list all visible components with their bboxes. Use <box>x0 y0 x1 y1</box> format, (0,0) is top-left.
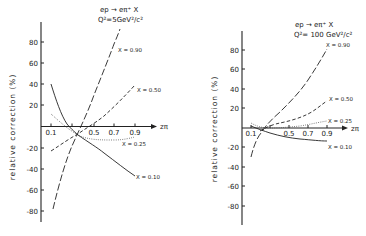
left-y-label: relative correction (%) <box>8 74 17 181</box>
right-x-label: zπ <box>351 125 360 133</box>
left-title-q2: Q²=5GeV²/c² <box>98 16 143 24</box>
svg-text:-20: -20 <box>27 145 38 153</box>
right-y-label: relative correction (%) <box>210 76 219 183</box>
left-curve-x090 <box>53 29 120 209</box>
svg-text:0.7: 0.7 <box>302 130 313 138</box>
svg-text:20: 20 <box>230 105 239 113</box>
svg-text:0.5: 0.5 <box>88 129 99 137</box>
svg-text:60: 60 <box>230 66 239 74</box>
left-chart: ep → eπ⁺ X Q²=5GeV²/c² zπ 80 60 40 20 -2… <box>8 6 169 222</box>
left-label-x090: X = 0.90 <box>118 47 143 53</box>
figure: ep → eπ⁺ X Q²=5GeV²/c² zπ 80 60 40 20 -2… <box>0 0 366 236</box>
svg-text:20: 20 <box>29 102 38 110</box>
svg-text:0.1: 0.1 <box>245 130 256 138</box>
svg-text:-60: -60 <box>228 183 239 191</box>
svg-text:80: 80 <box>29 39 38 47</box>
right-label-x010: X = 0.10 <box>328 144 353 150</box>
right-label-x025: X = 0.25 <box>328 118 353 124</box>
svg-text:0.9: 0.9 <box>129 129 140 137</box>
right-x-arrow-icon <box>342 126 348 131</box>
right-title-reaction: ep → eπ⁺ X <box>295 21 334 29</box>
left-x-ticks: 0.1 0.5 0.7 0.9 <box>45 124 140 138</box>
svg-text:-20: -20 <box>228 144 239 152</box>
svg-text:80: 80 <box>230 47 239 55</box>
svg-text:60: 60 <box>29 60 38 68</box>
svg-text:40: 40 <box>29 81 38 89</box>
left-label-x050: X = 0.50 <box>137 87 162 93</box>
svg-text:0.7: 0.7 <box>108 129 119 137</box>
svg-text:-40: -40 <box>27 166 38 174</box>
right-label-x090: X = 0.90 <box>326 42 351 48</box>
right-title-q2: Q²= 100 GeV²/c² <box>294 31 353 39</box>
left-title-reaction: ep → eπ⁺ X <box>100 6 139 14</box>
left-x-label: zπ <box>160 123 169 131</box>
svg-text:0.1: 0.1 <box>45 129 56 137</box>
svg-text:-40: -40 <box>228 164 239 172</box>
svg-text:0.9: 0.9 <box>321 130 332 138</box>
svg-text:40: 40 <box>230 86 239 94</box>
svg-text:-80: -80 <box>27 208 38 216</box>
left-label-x025: X = 0.25 <box>122 141 147 147</box>
left-x-arrow-icon <box>151 124 157 129</box>
right-label-x050: X = 0.50 <box>329 96 354 102</box>
svg-text:-80: -80 <box>228 203 239 211</box>
left-label-x010: X = 0.10 <box>136 174 161 180</box>
svg-text:-60: -60 <box>27 187 38 195</box>
right-chart: ep → eπ⁺ X Q²= 100 GeV²/c² zπ 80 60 40 2… <box>210 21 360 225</box>
